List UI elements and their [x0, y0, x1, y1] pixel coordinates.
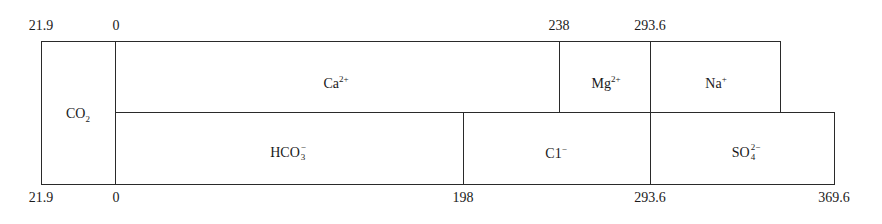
top-tick-238: 238 [549, 18, 570, 34]
mg-label: Mg2+ [591, 76, 620, 92]
top-tick-zero: 0 [113, 18, 120, 34]
bottom-tick-293-6: 293.6 [634, 190, 666, 206]
cl-label: C1− [545, 146, 566, 162]
bottom-tick-zero: 0 [113, 190, 120, 206]
so4-label: SO2−4 [732, 144, 760, 164]
na-label: Na+ [705, 76, 726, 92]
hco3-label: HCO−3 [270, 144, 306, 164]
co2-label: CO2 [66, 106, 90, 122]
top-tick-293-6: 293.6 [634, 18, 666, 34]
bottom-tick-co2: 21.9 [29, 190, 54, 206]
bottom-tick-369-6: 369.6 [818, 190, 850, 206]
top-tick-co2: 21.9 [29, 18, 54, 34]
bottom-tick-198: 198 [453, 190, 474, 206]
ca-label: Ca2+ [323, 76, 348, 92]
